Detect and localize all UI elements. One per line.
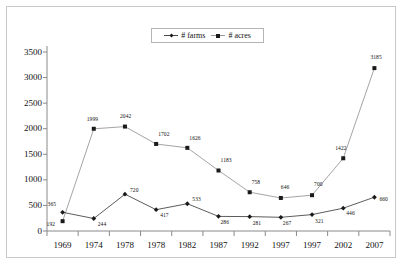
data-label: 660 (379, 196, 388, 202)
data-label: 646 (281, 184, 290, 190)
legend-item-farms[interactable]: # farms (164, 32, 205, 40)
legend-item-acres[interactable]: # acres (211, 32, 250, 40)
x-tick-10: 2007 (350, 241, 398, 250)
legend-marker-acres-icon (216, 34, 220, 38)
data-label: 2042 (120, 113, 131, 119)
legend-label-acres: # acres (228, 32, 250, 40)
data-label: 3185 (370, 54, 381, 60)
data-label: 192 (47, 221, 56, 227)
data-label: 281 (253, 220, 262, 226)
data-label: 286 (221, 219, 230, 225)
legend-line-acres (211, 35, 225, 36)
data-label: 244 (98, 221, 107, 227)
y-tick-1000: 1000 (8, 175, 42, 184)
data-label: 365 (48, 201, 57, 207)
y-tick-500: 500 (8, 201, 42, 210)
data-label: 1702 (158, 131, 169, 137)
series-farms (60, 192, 377, 221)
y-tick-1500: 1500 (8, 150, 42, 159)
series-acres (61, 66, 377, 223)
data-label: 1183 (221, 157, 232, 163)
legend-line-farms (164, 35, 178, 36)
data-label: 1999 (87, 116, 98, 122)
data-label: 533 (192, 196, 201, 202)
data-label: 446 (346, 210, 355, 216)
data-label: 758 (252, 179, 261, 185)
data-label: 321 (315, 218, 324, 224)
chart-axes (43, 46, 390, 236)
data-label: 267 (283, 220, 292, 226)
data-label: 417 (160, 212, 169, 218)
y-tick-3000: 3000 (8, 73, 42, 82)
legend-marker-farms-icon (169, 33, 173, 37)
data-label: 700 (314, 181, 323, 187)
y-tick-3500: 3500 (8, 48, 42, 57)
legend-label-farms: # farms (181, 32, 205, 40)
y-tick-0: 0 (8, 227, 42, 236)
chart-legend: # farms # acres (151, 28, 264, 43)
data-label: 1422 (335, 145, 346, 151)
data-label: 720 (130, 187, 139, 193)
y-tick-2500: 2500 (8, 99, 42, 108)
data-label: 1626 (189, 135, 200, 141)
y-tick-2000: 2000 (8, 124, 42, 133)
